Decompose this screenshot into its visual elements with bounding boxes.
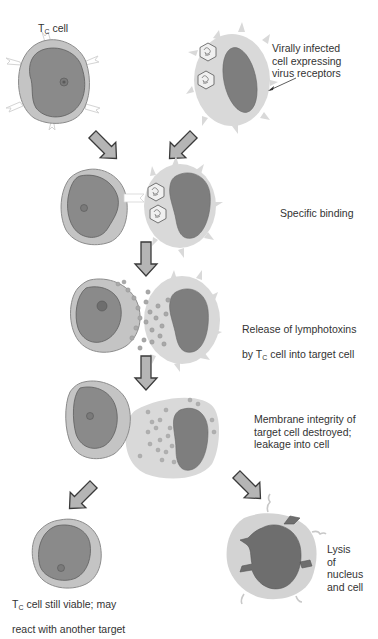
arrow-binding-to-release bbox=[135, 242, 157, 276]
tc-cell-viable bbox=[32, 519, 101, 588]
lysed-cell bbox=[227, 494, 326, 604]
target-cell-initial bbox=[186, 22, 278, 134]
arrow-to-lysis bbox=[229, 467, 269, 507]
label-virally-infected: Virally infected cell expressing virus r… bbox=[272, 42, 341, 80]
arrow-release-to-membrane bbox=[135, 356, 157, 390]
virus-particle bbox=[150, 205, 166, 223]
label-membrane-destroyed: Membrane integrity of target cell destro… bbox=[254, 413, 356, 451]
virus-particle bbox=[200, 43, 216, 61]
tc-nucleus bbox=[39, 525, 91, 580]
tc-nucleus bbox=[30, 48, 85, 117]
virus-particle bbox=[198, 71, 214, 89]
label-text: cell bbox=[49, 22, 68, 34]
label-text: cell still viable; may bbox=[23, 598, 116, 610]
arrow-target-to-binding bbox=[162, 127, 202, 167]
label-text: by T bbox=[242, 348, 262, 360]
label-lymphotoxin-release: Release of lymphotoxins by TC cell into … bbox=[242, 310, 356, 373]
virus-particle bbox=[148, 183, 164, 201]
arrow-to-viable-tc bbox=[62, 477, 102, 517]
arrow-tc-to-binding bbox=[85, 127, 125, 167]
label-text: cell into target cell bbox=[267, 348, 354, 360]
tc-cell-initial bbox=[6, 32, 100, 130]
label-tc-viable: TC cell still viable; may react with ano… bbox=[12, 585, 125, 639]
label-lysis: Lysis of nucleus and cell bbox=[327, 543, 363, 593]
label-line: Release of lymphotoxins bbox=[242, 323, 356, 336]
label-line: TC cell still viable; may bbox=[12, 598, 125, 611]
label-specific-binding: Specific binding bbox=[280, 207, 354, 220]
label-tc-cell: TC cell bbox=[38, 9, 68, 34]
label-line: react with another target bbox=[12, 623, 125, 636]
label-line: by TC cell into target cell bbox=[242, 348, 356, 361]
stage-membrane-destroyed bbox=[66, 381, 219, 479]
